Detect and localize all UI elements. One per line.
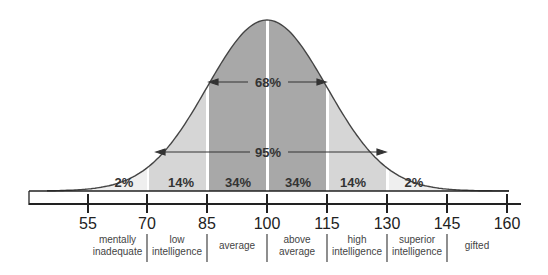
band-34-right [269,0,326,192]
category-line: high [327,234,387,246]
category-high-intelligence: high intelligence [327,234,387,258]
annotation-95: 95% [255,145,281,160]
category-line: low [147,234,207,246]
category-above-average: above average [267,234,327,258]
category-mentally-inadequate: mentally inadequate [88,234,147,258]
band-14-right [329,0,386,192]
band-34-left [209,0,266,192]
category-average: average [207,240,267,252]
band-label-2-right: 2% [405,175,424,190]
category-line: inadequate [88,246,147,258]
band-label-34-right: 34% [285,175,311,190]
band-label-14-right: 14% [340,175,366,190]
tick-160: 160 [494,215,521,232]
bands [20,0,519,192]
band-label-14-left: 14% [168,175,194,190]
tick-55: 55 [79,215,97,232]
category-line: average [267,246,327,258]
category-superior-intelligence: superior intelligence [387,234,447,258]
category-line: intelligence [147,246,207,258]
category-line: gifted [447,240,507,252]
tick-115: 115 [314,215,340,232]
tick-100: 100 [254,215,281,232]
category-line: above [267,234,327,246]
band-14-left [149,0,206,192]
category-line: mentally [88,234,147,246]
tick-70: 70 [138,215,156,232]
band-tail-left [20,0,147,192]
category-line: average [207,240,267,252]
category-low-intelligence: low intelligence [147,234,207,258]
x-axis [29,191,521,213]
category-gifted: gifted [447,240,507,252]
category-line: intelligence [387,246,447,258]
category-line: superior [387,234,447,246]
annotation-68: 68% [255,75,281,90]
tick-130: 130 [374,215,401,232]
tick-145: 145 [434,215,461,232]
band-label-34-left: 34% [225,175,251,190]
tick-85: 85 [198,215,216,232]
category-line: intelligence [327,246,387,258]
band-tail-right [389,0,519,192]
band-label-2-left: 2% [115,175,134,190]
